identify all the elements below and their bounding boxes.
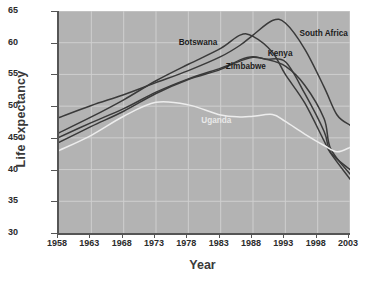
x-axis-label: Year (57, 258, 348, 272)
y-tick-label: 45 (0, 132, 18, 142)
chart-root: Life expectancy Year Source: World Bank,… (0, 0, 370, 281)
plot-area: South AfricaBotswanaKenyaZimbabweUganda (57, 11, 350, 235)
series-label-zimbabwe: Zimbabwe (226, 62, 266, 71)
series-label-south-africa: South Africa (300, 29, 348, 38)
series-line-uganda (59, 102, 350, 152)
series-label-kenya: Kenya (268, 49, 293, 58)
y-tick-label: 65 (0, 5, 18, 15)
x-tick-label: 2003 (328, 238, 368, 248)
y-tick-label: 40 (0, 164, 18, 174)
y-tick-label: 35 (0, 195, 18, 205)
series-label-botswana: Botswana (179, 38, 218, 47)
y-tick-label: 55 (0, 68, 18, 78)
series-label-uganda: Uganda (201, 116, 231, 125)
y-tick-label: 30 (0, 227, 18, 237)
y-tick-label: 60 (0, 37, 18, 47)
y-tick-label: 50 (0, 100, 18, 110)
